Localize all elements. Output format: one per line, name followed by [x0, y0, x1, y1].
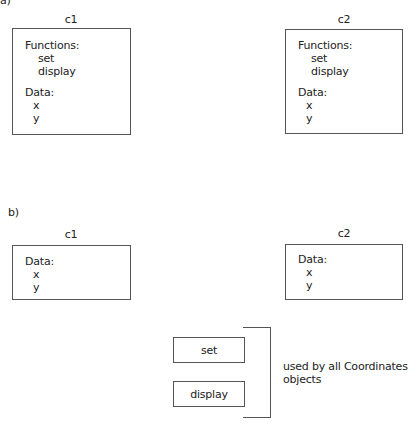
object-c2-box: Data: x y — [285, 244, 403, 300]
object-c2-box: Functions: set display Data: x y — [285, 29, 403, 134]
functions-header: Functions: — [25, 39, 79, 52]
data-y: y — [33, 281, 39, 294]
shared-function-set: set — [174, 344, 244, 357]
shared-function-display: display — [174, 388, 244, 401]
data-header: Data: — [298, 86, 327, 99]
shared-note-line1: used by all Coordinates — [283, 360, 408, 373]
shared-note-line2: objects — [283, 373, 321, 386]
object-c1-box: Functions: set display Data: x y — [12, 28, 131, 135]
data-x: x — [33, 268, 39, 281]
function-display: display — [38, 65, 76, 78]
object-c2-title: c2 — [285, 227, 403, 240]
shared-function-display-box: display — [173, 381, 245, 407]
function-set: set — [38, 52, 54, 65]
data-x: x — [306, 266, 312, 279]
part-a-label: a) — [0, 0, 11, 7]
object-c1-title: c1 — [12, 228, 130, 241]
data-y: y — [33, 112, 39, 125]
shared-function-set-box: set — [173, 337, 245, 363]
data-x: x — [33, 99, 39, 112]
data-header: Data: — [25, 255, 54, 268]
object-c1-box: Data: x y — [12, 245, 131, 300]
data-header: Data: — [298, 253, 327, 266]
data-x: x — [306, 99, 312, 112]
part-b-label: b) — [8, 206, 19, 219]
object-c1-title: c1 — [12, 13, 130, 26]
object-c2-title: c2 — [285, 13, 403, 26]
function-set: set — [311, 52, 327, 65]
data-y: y — [306, 112, 312, 125]
function-display: display — [311, 65, 349, 78]
shared-functions-bracket — [243, 327, 271, 418]
data-header: Data: — [25, 86, 54, 99]
functions-header: Functions: — [298, 39, 352, 52]
data-y: y — [306, 279, 312, 292]
